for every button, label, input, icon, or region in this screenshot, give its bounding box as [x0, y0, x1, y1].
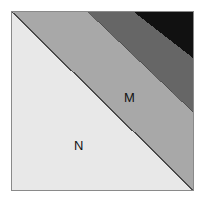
diagram-panel: M N	[11, 11, 194, 191]
region-label-n: N	[74, 139, 83, 152]
diagonal-bands-svg	[12, 12, 193, 190]
figure-root: M N	[0, 0, 205, 201]
diagonal-bands-surface	[12, 12, 193, 190]
region-label-m: M	[124, 91, 135, 104]
